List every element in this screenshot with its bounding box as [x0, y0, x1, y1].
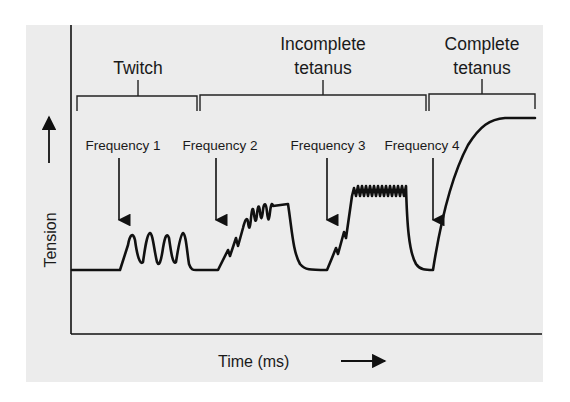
- y-axis-label: Tension: [42, 212, 59, 267]
- x-axis-label: Time (ms): [218, 353, 289, 370]
- stimulus-label-4: Frequency 4: [384, 138, 460, 153]
- region-label-complete-line1: Complete: [445, 34, 520, 54]
- stimulus-label-3: Frequency 3: [290, 138, 365, 153]
- stimulus-label-2: Frequency 2: [182, 138, 257, 153]
- region-label-incomplete-line2: tetanus: [294, 58, 352, 78]
- stimulus-label-1: Frequency 1: [85, 138, 160, 153]
- region-label-twitch: Twitch: [113, 58, 163, 78]
- region-label-complete-line2: tetanus: [453, 58, 511, 78]
- region-label-incomplete-line1: Incomplete: [280, 34, 366, 54]
- muscle-tension-diagram: Tension Time (ms) Twitch Incomplete teta…: [0, 0, 570, 402]
